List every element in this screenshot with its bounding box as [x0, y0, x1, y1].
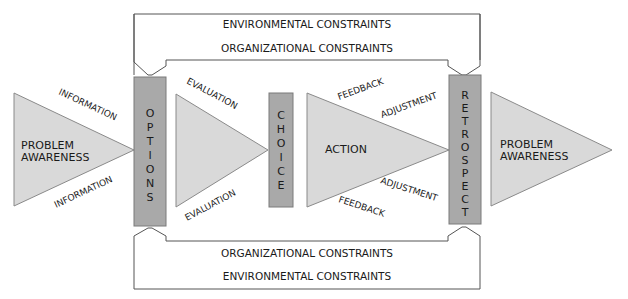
svg-text:N: N	[146, 177, 154, 190]
evaluation-triangle	[176, 94, 268, 207]
adjustment-bottom-label: ADJUSTMENT	[379, 175, 439, 203]
feedback-bottom-label: FEEDBACK	[337, 194, 387, 219]
svg-text:O: O	[146, 163, 155, 176]
adjustment-top-label: ADJUSTMENT	[379, 90, 439, 120]
organizational-constraints-top: ORGANIZATIONAL CONSTRAINTS	[221, 42, 393, 54]
svg-text:S: S	[462, 154, 469, 167]
information-top-label: INFORMATION	[57, 87, 118, 123]
svg-text:E: E	[278, 179, 285, 192]
svg-text:I: I	[279, 151, 282, 164]
svg-text:S: S	[147, 191, 154, 204]
environmental-constraints-bottom: ENVIRONMENTAL CONSTRAINTS	[223, 270, 392, 282]
problem-awareness-left-label-2: AWARENESS	[21, 151, 89, 164]
svg-text:T: T	[146, 135, 154, 148]
action-label: ACTION	[325, 143, 367, 156]
svg-text:O: O	[461, 141, 470, 154]
svg-text:H: H	[277, 123, 285, 136]
svg-text:C: C	[461, 193, 469, 206]
decision-process-diagram: ENVIRONMENTAL CONSTRAINTS ORGANIZATIONAL…	[0, 0, 628, 299]
svg-text:C: C	[277, 109, 285, 122]
problem-awareness-right-label-2: AWARENESS	[500, 150, 568, 163]
feedback-top-label: FEEDBACK	[336, 76, 385, 102]
svg-text:R: R	[461, 128, 469, 141]
svg-text:T: T	[461, 115, 469, 128]
svg-text:C: C	[277, 165, 285, 178]
svg-text:I: I	[148, 149, 151, 162]
svg-text:O: O	[277, 137, 286, 150]
retrospect-label: R E T R O S P E C T	[461, 89, 470, 219]
svg-text:E: E	[462, 180, 469, 193]
svg-text:E: E	[462, 102, 469, 115]
svg-text:P: P	[462, 167, 469, 180]
svg-text:R: R	[461, 89, 469, 102]
svg-text:T: T	[461, 206, 469, 219]
organizational-constraints-bottom: ORGANIZATIONAL CONSTRAINTS	[221, 247, 393, 259]
svg-text:O: O	[146, 107, 155, 120]
svg-text:P: P	[147, 121, 154, 134]
environmental-constraints-top: ENVIRONMENTAL CONSTRAINTS	[223, 18, 392, 30]
